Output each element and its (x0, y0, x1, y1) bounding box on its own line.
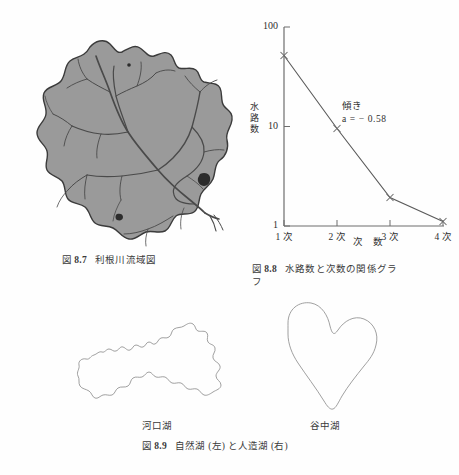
figure-stream-order-chart: 100 10 1 水 路 数 1 次 2 次 3 次 4 次 次 数 傾き a … (246, 16, 451, 256)
chart-y-axis-title: 水 路 数 (248, 102, 260, 135)
natural-lake-outline-svg (66, 318, 246, 413)
y-axis-title-char-1: 水 (248, 102, 260, 113)
caption-text: 利根川流域図 (95, 255, 156, 265)
caption-fig-label: 図 (252, 264, 262, 274)
chart-x-axis-title: 次 数 (310, 234, 430, 248)
chart-x-ticks (284, 220, 443, 226)
y-axis-title-char-3: 数 (248, 124, 260, 135)
chart-plot-area: 100 10 1 水 路 数 1 次 2 次 3 次 4 次 次 数 傾き a … (246, 16, 451, 256)
chart-data-markers (281, 52, 447, 225)
artificial-lake-outline-svg (268, 296, 388, 416)
chart-annotation-slope-label: 傾き (342, 98, 362, 112)
document-page: 図8.7利根川流域図 (0, 0, 459, 475)
label-natural-lake: 河口湖 (142, 418, 172, 432)
chart-axes (284, 27, 444, 226)
x-tick-label-1: 1 次 (267, 229, 301, 243)
watershed-map-svg (24, 32, 239, 247)
caption-fig-label: 図 (62, 255, 72, 265)
label-artificial-lake: 谷中湖 (310, 418, 340, 432)
watershed-basin-shape (37, 41, 232, 239)
caption-fig-number: 8.7 (74, 255, 87, 265)
figure-watershed-map (24, 32, 239, 247)
y-tick-label-100: 100 (252, 20, 278, 31)
chart-annotation-slope-equation: a = − 0.58 (342, 114, 387, 124)
caption-text: 自然湖 (左) と人造湖 (右) (175, 441, 288, 451)
caption-fig-number: 8.9 (154, 441, 167, 451)
x-tick-label-4: 4 次 (426, 229, 459, 243)
figure-artificial-lake (268, 296, 388, 416)
caption-figure-8-9: 図8.9自然湖 (左) と人造湖 (右) (142, 438, 288, 452)
caption-fig-label: 図 (142, 441, 152, 451)
y-axis-title-char-2: 路 (248, 113, 260, 124)
figure-natural-lake (66, 318, 246, 413)
caption-fig-number: 8.8 (264, 264, 277, 274)
caption-figure-8-7: 図8.7利根川流域図 (62, 252, 156, 266)
chart-data-line (284, 56, 443, 222)
caption-figure-8-8: 図8.8水路数と次数の関係グラフ (252, 263, 402, 289)
